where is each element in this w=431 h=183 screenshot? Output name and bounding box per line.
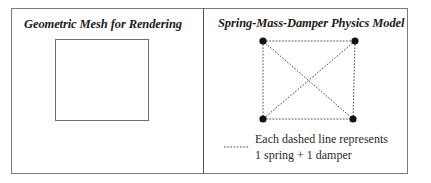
figure: Geometric Mesh for Rendering Spring-Mass… — [0, 0, 431, 183]
edge-diagonal-up — [263, 41, 355, 119]
mesh-square — [56, 40, 149, 121]
legend-line-2: 1 spring + 1 damper — [255, 147, 352, 163]
mass-node-bottom-left — [259, 115, 266, 122]
spring-graph — [263, 41, 355, 119]
mass-node-bottom-right — [349, 115, 356, 122]
legend-line-1: Each dashed line represents — [255, 131, 388, 147]
left-panel-title: Geometric Mesh for Rendering — [24, 17, 182, 32]
mass-node-top-left — [259, 37, 266, 44]
edge-right — [353, 41, 355, 119]
mass-node-top-right — [351, 37, 358, 44]
right-panel-title: Spring-Mass-Damper Physics Model — [218, 16, 404, 31]
